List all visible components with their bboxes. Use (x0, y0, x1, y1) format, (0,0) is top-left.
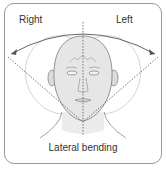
label-left: Left (116, 14, 133, 25)
right-eye (67, 71, 77, 75)
head (54, 36, 112, 121)
arrow-right-icon (11, 49, 17, 55)
arrow-left-icon (149, 49, 155, 55)
caption: Lateral bending (0, 142, 166, 153)
label-right: Right (19, 14, 42, 25)
left-eye (89, 71, 99, 75)
